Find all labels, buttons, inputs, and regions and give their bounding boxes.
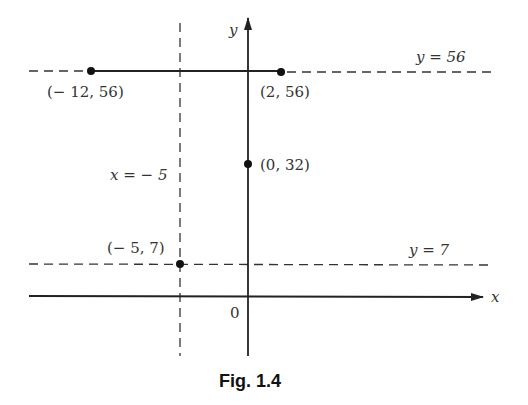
x-axis-label: x bbox=[491, 288, 500, 306]
point-label-minus12-56: (− 12, 56) bbox=[47, 83, 124, 101]
point-label-2-56: (2, 56) bbox=[260, 83, 310, 101]
coordinate-figure: y x 0 (− 12, 56) (2, 56) (0, 32) (− 5, 7… bbox=[0, 0, 528, 405]
origin-label: 0 bbox=[230, 304, 240, 322]
line-label-x-minus-5: x = − 5 bbox=[110, 166, 167, 184]
point-label-minus5-7: (− 5, 7) bbox=[107, 239, 165, 257]
line-label-y-56: y = 56 bbox=[415, 48, 466, 66]
point-label-0-32: (0, 32) bbox=[260, 156, 310, 174]
point-0-32 bbox=[244, 160, 252, 168]
point-minus12-56 bbox=[87, 67, 95, 75]
figure-caption: Fig. 1.4 bbox=[219, 371, 281, 391]
line-label-y-7: y = 7 bbox=[408, 241, 450, 259]
line-y-7 bbox=[29, 264, 489, 265]
y-axis-label: y bbox=[228, 21, 238, 39]
point-2-56 bbox=[277, 68, 285, 76]
x-axis bbox=[29, 296, 483, 297]
point-minus5-7 bbox=[176, 260, 184, 268]
